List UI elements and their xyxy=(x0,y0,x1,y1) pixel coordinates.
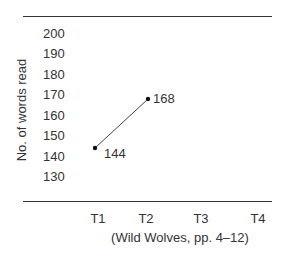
x-tick-t2: T2 xyxy=(138,212,153,226)
data-label-t1: 144 xyxy=(104,147,126,161)
x-tick-t1: T1 xyxy=(90,212,105,226)
data-point-t1 xyxy=(93,146,97,150)
x-tick-t3: T3 xyxy=(193,212,208,226)
data-point-t2 xyxy=(146,97,150,101)
data-label-t2: 168 xyxy=(153,92,175,106)
x-axis-label: (Wild Wolves, pp. 4–12) xyxy=(111,230,249,245)
x-tick-t4: T4 xyxy=(250,212,265,226)
series-line xyxy=(95,99,148,148)
